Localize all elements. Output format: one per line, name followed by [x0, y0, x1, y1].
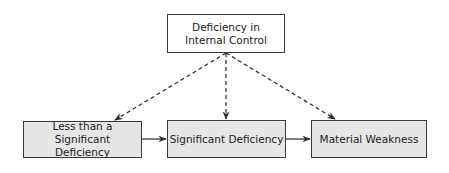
node-deficiency-in-internal-control: Deficiency in Internal Control	[167, 14, 285, 53]
node-label: Significant Deficiency	[170, 133, 284, 146]
dashed-arrow-to-material-weakness	[226, 53, 335, 119]
node-material-weakness: Material Weakness	[311, 120, 427, 158]
node-label: Deficiency in Internal Control	[174, 21, 278, 47]
node-label: Material Weakness	[320, 133, 419, 146]
node-significant-deficiency: Significant Deficiency	[167, 120, 286, 158]
dashed-arrow-to-less-than-significant	[115, 53, 226, 120]
node-label: Less than a Significant Deficiency	[27, 120, 138, 159]
node-less-than-significant-deficiency: Less than a Significant Deficiency	[23, 121, 142, 158]
